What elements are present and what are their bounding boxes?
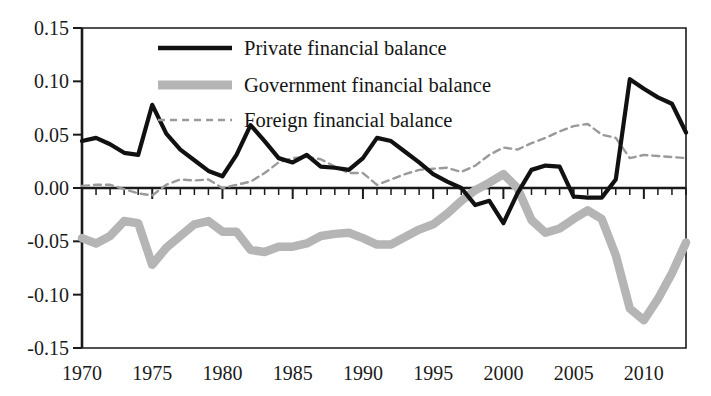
private-balance-line [82,79,686,223]
y-axis-tick-label: 0.05 [34,125,69,145]
y-axis-tick-label: 0.10 [34,71,69,91]
foreign-balance-line [82,124,686,195]
chart-plot-area [0,0,711,396]
financial-balances-chart: 0.150.100.050.00-0.05-0.10-0.15 19701975… [0,0,711,396]
x-axis-tick-label: 2005 [554,363,594,383]
y-axis-tick-label: 0.15 [34,18,69,38]
y-axis-tick-label: 0.00 [34,178,69,198]
x-axis-tick-label: 1995 [413,363,453,383]
x-axis-tick-label: 1985 [273,363,313,383]
x-axis-tick-label: 1975 [132,363,172,383]
legend-item-label: Government financial balance [244,75,491,96]
y-axis-tick-label: -0.10 [27,285,69,305]
x-axis-tick-label: 1980 [202,363,242,383]
x-axis-tick-label: 2010 [624,363,664,383]
y-axis-tick-label: -0.15 [27,338,69,358]
legend-item-label: Private financial balance [244,38,447,59]
x-axis-tick-label: 1990 [343,363,383,383]
x-axis-tick-label: 2000 [483,363,523,383]
x-axis-tick-label: 1970 [62,363,102,383]
legend-item-label: Foreign financial balance [244,110,452,131]
y-axis-tick-label: -0.05 [27,231,69,251]
